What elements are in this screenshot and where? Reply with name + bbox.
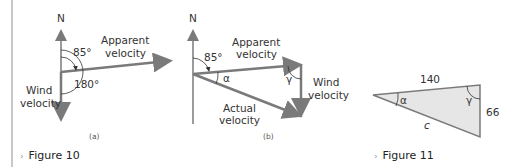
north-label: N [189, 12, 197, 24]
wind-label-1: Wind [313, 76, 339, 88]
panel-b-label: (b) [263, 132, 274, 141]
alpha-label: α [223, 72, 230, 84]
figures-canvas: N 85° 180° Apparent velocity Wind veloci… [0, 0, 517, 167]
figure10-panel-a: N 85° 180° Apparent velocity Wind veloci… [20, 12, 168, 141]
gamma-label: γ [466, 94, 472, 106]
wind-label-1: Wind [26, 84, 52, 96]
wind-label-2: velocity [308, 89, 349, 101]
apparent-label-2: velocity [236, 48, 277, 60]
wind-label-2: velocity [20, 97, 61, 109]
side-140-label: 140 [420, 73, 440, 85]
alpha-arc [216, 72, 218, 84]
figure11-caption: ›Figure 11 [374, 149, 434, 162]
figure11-triangle: 140 66 c α γ [373, 73, 500, 137]
actual-label-2: velocity [219, 114, 260, 126]
figure10-caption: ›Figure 10 [20, 149, 80, 162]
gamma-label: γ [286, 73, 292, 85]
actual-label-1: Actual [223, 102, 256, 114]
alpha-label: α [400, 94, 407, 106]
figure10-panel-b: N 85° α γ Apparent velocity Wind velocit… [189, 12, 349, 141]
panel-a-label: (a) [89, 132, 100, 141]
apparent-velocity-arrow [61, 61, 168, 72]
angle-85-arc [61, 57, 76, 70]
apparent-label-1: Apparent [101, 34, 149, 46]
chevron-right-icon: › [374, 151, 378, 161]
north-label: N [57, 12, 65, 24]
angle-180-label: 180° [74, 78, 99, 90]
apparent-label-2: velocity [105, 47, 146, 59]
side-c-label: c [424, 119, 430, 131]
side-66-label: 66 [486, 106, 500, 118]
apparent-label-1: Apparent [232, 36, 280, 48]
angle-85-label: 85° [73, 46, 92, 58]
angle-85-label: 85° [204, 51, 223, 63]
chevron-right-icon: › [20, 151, 24, 161]
